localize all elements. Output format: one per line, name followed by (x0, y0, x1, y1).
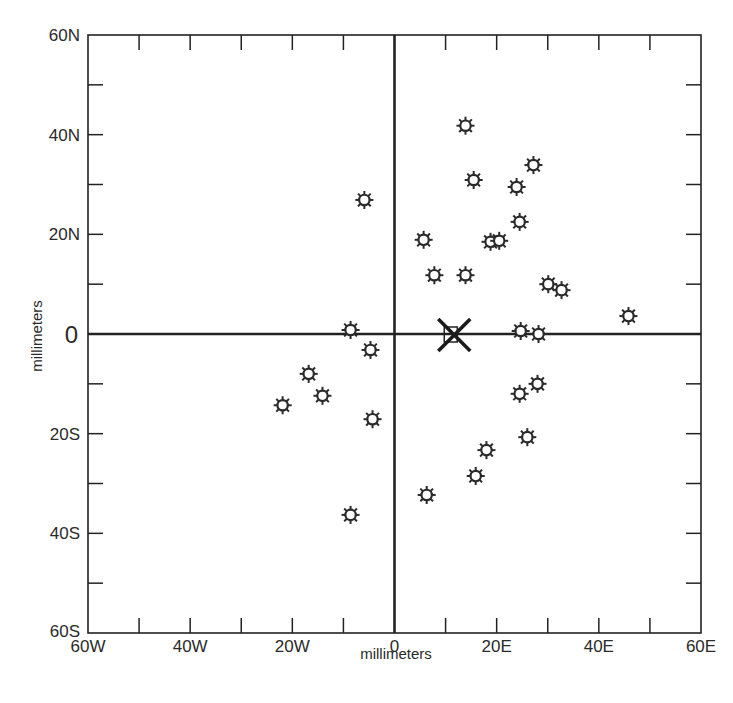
x-tick-label: 20E (482, 637, 512, 656)
sun-star-marker (512, 322, 530, 340)
sun-star-marker (425, 266, 443, 284)
marker-ring (511, 182, 521, 192)
y-tick-label: 20N (49, 225, 80, 244)
y-tick-label: 0 (65, 321, 78, 348)
marker-ring (494, 236, 504, 246)
sun-star-marker (477, 441, 495, 459)
marker-ring (515, 326, 525, 336)
marker-ring (365, 345, 375, 355)
sun-star-marker (418, 486, 436, 504)
marker-ring (345, 510, 355, 520)
x-tick-label: 20W (275, 637, 310, 656)
y-tick-label: 60S (50, 622, 80, 641)
y-tick-label: 20S (50, 425, 80, 444)
x-tick-label: 40E (584, 637, 614, 656)
sun-star-marker (508, 178, 526, 196)
marker-ring (317, 391, 327, 401)
marker-ring (528, 160, 538, 170)
sun-star-marker (490, 232, 508, 250)
marker-ring (481, 445, 491, 455)
marker-ring (471, 471, 481, 481)
marker-ring (460, 120, 470, 130)
sun-star-marker (457, 117, 475, 135)
sun-star-marker (530, 325, 548, 343)
sun-star-marker (518, 428, 536, 446)
y-axis-title: millimeters (28, 300, 45, 372)
y-tick-label: 40S (50, 524, 80, 543)
marker-ring (277, 400, 287, 410)
sun-star-marker (342, 321, 360, 339)
marker-ring (468, 175, 478, 185)
sun-star-marker (524, 156, 542, 174)
marker-ring (421, 490, 431, 500)
marker-ring (533, 329, 543, 339)
sun-star-marker (300, 365, 318, 383)
marker-ring (359, 195, 369, 205)
marker-ring (514, 389, 524, 399)
y-tick-label: 60N (49, 26, 80, 45)
marker-ring (532, 379, 542, 389)
y-tick-labels: 60N40N20N020S40S60S (49, 26, 80, 641)
sun-star-marker (313, 387, 331, 405)
marker-ring (522, 432, 532, 442)
marker-ring (556, 285, 566, 295)
sun-star-marker (465, 171, 483, 189)
sun-star-marker (511, 385, 529, 403)
sun-star-marker (415, 231, 433, 249)
sun-star-marker (355, 191, 373, 209)
sun-star-marker (553, 281, 571, 299)
sun-star-marker (342, 506, 360, 524)
sun-star-marker (361, 341, 379, 359)
sun-star-marker (467, 467, 485, 485)
sun-star-marker (457, 266, 475, 284)
center-axes (88, 35, 701, 633)
data-points (274, 117, 638, 524)
sun-star-marker (364, 410, 382, 428)
marker-ring (429, 270, 439, 280)
x-tick-label: 40W (173, 637, 208, 656)
marker-ring (514, 217, 524, 227)
marker-ring (345, 325, 355, 335)
marker-ring (303, 369, 313, 379)
sun-star-marker (274, 396, 292, 414)
x-tick-label: 60E (686, 637, 716, 656)
marker-ring (543, 279, 553, 289)
x-axis-title: millimeters (360, 645, 432, 662)
marker-ring (367, 414, 377, 424)
sun-star-marker (529, 375, 547, 393)
y-tick-label: 40N (49, 126, 80, 145)
marker-ring (460, 270, 470, 280)
marker-ring (623, 311, 633, 321)
scatter-chart: 60W40W20W020E40E60E 60N40N20N020S40S60S … (0, 0, 733, 703)
marker-ring (418, 235, 428, 245)
sun-star-marker (511, 213, 529, 231)
sun-star-marker (619, 307, 637, 325)
